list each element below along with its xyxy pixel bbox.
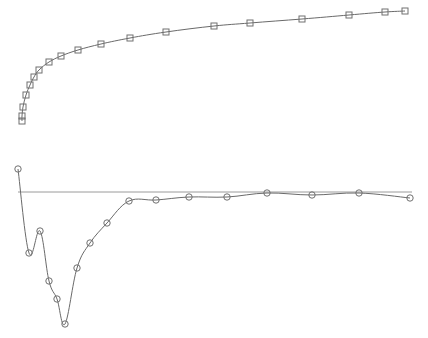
chart-canvas bbox=[0, 0, 428, 338]
series-layer bbox=[15, 8, 413, 327]
upper-series-line bbox=[22, 11, 405, 121]
upper-series bbox=[19, 8, 408, 124]
lower-series bbox=[15, 166, 413, 327]
